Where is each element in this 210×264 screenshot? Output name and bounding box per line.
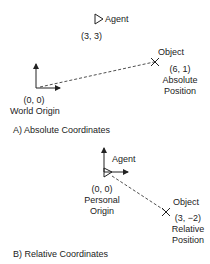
- object-b-desc-2: Position: [166, 235, 210, 245]
- personal-origin-coords: (0, 0): [80, 184, 124, 194]
- absolute-position-line: [40, 62, 154, 87]
- agent-a-label: Agent: [105, 14, 129, 24]
- personal-origin-label-2: Origin: [76, 206, 128, 216]
- object-a-desc-1: Absolute: [158, 75, 202, 85]
- world-origin-axes: [36, 64, 60, 88]
- personal-origin-label-1: Personal: [76, 195, 128, 205]
- object-a-x-icon: [151, 58, 159, 66]
- world-origin-coords: (0, 0): [14, 95, 54, 105]
- object-b-coords: (3, −2): [168, 213, 208, 223]
- object-a-label: Object: [158, 47, 184, 57]
- object-b-label: Object: [173, 197, 199, 207]
- agent-b-label: Agent: [112, 154, 136, 164]
- object-a-desc-2: Position: [158, 86, 202, 96]
- object-a-coords: (6, 1): [160, 64, 200, 74]
- caption-b: B) Relative Coordinates: [13, 249, 108, 259]
- world-origin-label: World Origin: [10, 106, 60, 116]
- object-b-desc-1: Relative: [166, 224, 210, 234]
- agent-a-triangle-icon: [95, 14, 103, 24]
- agent-a-coords: (3, 3): [81, 31, 102, 41]
- caption-a: A) Absolute Coordinates: [13, 125, 110, 135]
